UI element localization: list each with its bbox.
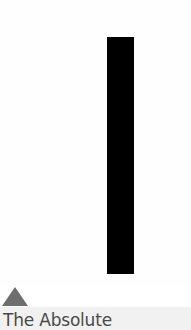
cover-art-bar — [107, 37, 134, 274]
cover-image[interactable] — [0, 0, 191, 284]
item-title[interactable]: The Absolute — [3, 309, 112, 330]
triangle-up-icon[interactable] — [2, 287, 28, 306]
